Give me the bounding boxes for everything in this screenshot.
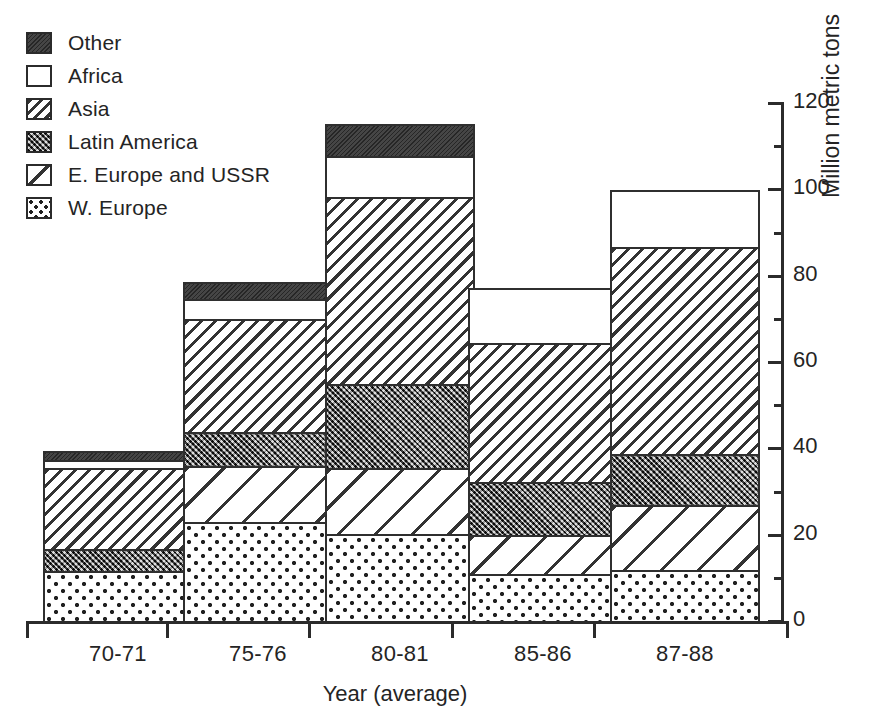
bar-segment-w-europe[interactable] (468, 574, 618, 623)
bar-segment-w-europe[interactable] (610, 570, 760, 623)
x-axis-tick-label: 87-88 (610, 641, 760, 667)
x-axis-title: Year (average) (0, 681, 790, 707)
bar-70-71[interactable] (43, 451, 193, 621)
bar-75-76[interactable] (183, 282, 333, 621)
bar-segment-w-europe[interactable] (43, 571, 193, 623)
y-axis-tick-label: 0 (793, 606, 805, 632)
y-axis-tick-major (768, 620, 784, 623)
bar-segment-e-europe-ussr[interactable] (183, 466, 333, 523)
plot-area (26, 100, 766, 626)
x-axis-tick (26, 621, 29, 638)
y-axis-tick-label: 20 (793, 520, 817, 546)
bar-segment-latin-america[interactable] (183, 432, 333, 469)
x-axis-tick (308, 621, 311, 638)
bar-segment-asia[interactable] (610, 247, 760, 456)
bar-segment-asia[interactable] (325, 197, 475, 387)
y-axis-tick-minor (774, 404, 784, 407)
bar-segment-w-europe[interactable] (325, 534, 475, 623)
bar-85-86[interactable] (468, 288, 618, 621)
bar-segment-w-europe[interactable] (183, 522, 333, 623)
y-axis-tick-minor (774, 318, 784, 321)
y-axis-title: Million metric tons (818, 0, 845, 198)
x-axis-tick-label: 70-71 (43, 641, 193, 667)
bar-segment-africa[interactable] (610, 190, 760, 249)
y-axis-tick-major (768, 447, 784, 450)
y-axis-tick-major (768, 275, 784, 278)
legend-item-other[interactable]: Other (26, 26, 356, 59)
x-axis-tick-label: 75-76 (183, 641, 333, 667)
x-axis-tick (166, 621, 169, 638)
y-axis-tick-minor (774, 145, 784, 148)
bar-segment-latin-america[interactable] (610, 454, 760, 507)
y-axis-tick-minor (774, 577, 784, 580)
bar-80-81[interactable] (325, 124, 475, 621)
y-axis-tick-major (768, 534, 784, 537)
y-axis-tick-label: 80 (793, 261, 817, 287)
legend-swatch-africa-icon (26, 65, 52, 87)
bar-segment-asia[interactable] (183, 319, 333, 433)
bar-segment-africa[interactable] (183, 299, 333, 321)
x-axis-tick (593, 621, 596, 638)
legend-label-africa: Africa (68, 64, 123, 88)
bar-segment-other[interactable] (325, 124, 475, 158)
y-axis-tick-label: 60 (793, 347, 817, 373)
x-axis-tick (786, 621, 789, 638)
y-axis-tick-major (768, 361, 784, 364)
bar-segment-latin-america[interactable] (325, 384, 475, 469)
y-axis-tick-minor (774, 232, 784, 235)
bar-segment-africa[interactable] (468, 288, 618, 345)
bar-segment-asia[interactable] (43, 468, 193, 551)
x-axis-tick-label: 80-81 (325, 641, 475, 667)
bar-segment-latin-america[interactable] (468, 482, 618, 537)
y-axis-tick-minor (774, 491, 784, 494)
x-axis-line (26, 621, 788, 624)
legend-label-other: Other (68, 31, 122, 55)
bar-segment-e-europe-ussr[interactable] (325, 468, 475, 536)
bar-segment-africa[interactable] (325, 156, 475, 199)
legend-swatch-other-icon (26, 32, 52, 54)
bar-segment-asia[interactable] (468, 343, 618, 484)
bar-segment-latin-america[interactable] (43, 549, 193, 573)
x-axis-tick (451, 621, 454, 638)
bar-87-88[interactable] (610, 190, 760, 621)
chart-figure: Other Africa Asia Latin America E. Europ… (0, 0, 893, 728)
legend-item-africa[interactable]: Africa (26, 59, 356, 92)
x-axis-tick-label: 85-86 (468, 641, 618, 667)
bar-segment-e-europe-ussr[interactable] (610, 505, 760, 571)
bar-segment-e-europe-ussr[interactable] (468, 535, 618, 576)
y-axis-tick-label: 40 (793, 433, 817, 459)
y-axis-tick-major (768, 102, 784, 105)
y-axis-tick-major (768, 188, 784, 191)
